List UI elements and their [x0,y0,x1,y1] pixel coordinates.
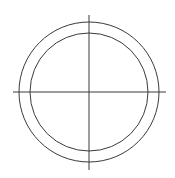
concentric-circles-drawing [0,0,175,178]
